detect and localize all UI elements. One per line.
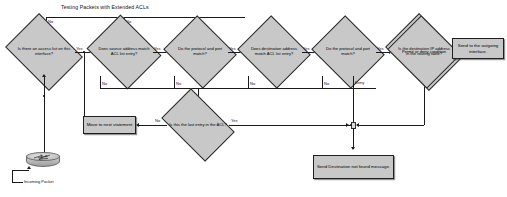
router-arrows-icon [26, 152, 60, 168]
edge-label-yes-3: Yes [229, 46, 236, 51]
bottom-rail-riser-d3 [174, 76, 175, 88]
edge-label-deny: Deny [355, 80, 364, 85]
action-move-next-statement[interactable]: Move to next statement [83, 116, 136, 134]
bottom-rail-riser-d2 [100, 76, 101, 88]
edge-loopback-riser [84, 52, 85, 123]
edge-label-yes-4: Yes [303, 46, 310, 51]
decision-access-list-label: Is there an access list on this interfac… [13, 28, 75, 76]
decision-destination-address[interactable]: Does destination address match ACL list … [246, 28, 302, 76]
edge-label-yes-2: Yes [154, 46, 161, 51]
decision-last-entry-label: Is this the last entry in the ACL? [167, 104, 229, 146]
decision-protocol-port-1-label: Do the protocol and port match? [172, 28, 228, 76]
edge-label-no-bottom-3: No [176, 81, 181, 86]
edge-label-no-bottom-5: No [324, 81, 329, 86]
decision-routing-table[interactable]: Is the destination IP address in the rou… [396, 28, 452, 76]
edge-junction-to-notfound-arrow [351, 147, 355, 150]
top-rail [46, 17, 245, 18]
decision-protocol-port-2[interactable]: Do the protocol and port match? [320, 28, 376, 76]
edge-incoming-to-d1 [44, 76, 45, 152]
decision-destination-address-label: Does destination address match ACL list … [246, 28, 302, 76]
edge-routing-no-run [357, 125, 424, 126]
action-destination-not-found[interactable]: Send Destination not found message. [313, 155, 394, 179]
bottom-rail-riser-d5 [322, 76, 323, 88]
edge-incoming-label-riser [12, 170, 13, 182]
edge-label-no-bottom-2: No [102, 81, 107, 86]
action-destination-not-found-label: Send Destination not found message. [317, 164, 390, 169]
edge-d8-no [139, 125, 167, 126]
edge-d8-yes-arrow [346, 123, 349, 127]
edge-incoming-to-router [12, 170, 29, 171]
bottom-rail-riser-d4 [248, 76, 249, 88]
edge-d8-yes [229, 125, 352, 126]
decision-source-address-label: Does source address match ACL list entry… [95, 28, 153, 76]
action-send-outgoing-label: Send to the outgoing interface. [453, 43, 503, 54]
action-send-outgoing[interactable]: Send to the outgoing interface. [452, 38, 504, 59]
decision-last-entry[interactable]: Is this the last entry in the ACL? [167, 104, 229, 146]
action-move-next-statement-label: Move to next statement [87, 122, 133, 127]
edge-junction-to-notfound [353, 128, 354, 149]
edge-deny [353, 76, 354, 122]
edge-label-no-bottom-4: No [250, 81, 255, 86]
decision-access-list[interactable]: Is there an access list on this interfac… [13, 28, 75, 76]
edge-label-yes-1: Yes [76, 46, 83, 51]
edge-label-yes-5: Yes [377, 46, 384, 51]
edge-d8-no-arrow [136, 123, 139, 127]
incoming-packet-label: Incoming Packet [24, 179, 54, 184]
junction-dot-left [350, 124, 352, 126]
edge-label-yes-last: Yes [231, 118, 238, 123]
edge-d5-yes [376, 52, 390, 53]
bottom-rail [100, 88, 376, 89]
chart-title: Testing Packets with Extended ACLs [61, 4, 149, 10]
router-icon [26, 152, 60, 168]
edge-label-no-last: No [155, 118, 160, 123]
decision-protocol-port-1[interactable]: Do the protocol and port match? [172, 28, 228, 76]
flowchart-canvas: Testing Packets with Extended ACLs No No… [0, 0, 507, 197]
decision-source-address[interactable]: Does source address match ACL list entry… [95, 28, 153, 76]
edge-routing-no-arrow [356, 123, 359, 127]
edge-incoming-label-run [12, 182, 23, 183]
decision-routing-table-label: Is the destination IP address in the rou… [396, 28, 452, 76]
edge-incoming-to-router-arrow [27, 166, 31, 169]
decision-protocol-port-2-label: Do the protocol and port match? [320, 28, 376, 76]
junction-dot-d1bottom [43, 95, 45, 97]
